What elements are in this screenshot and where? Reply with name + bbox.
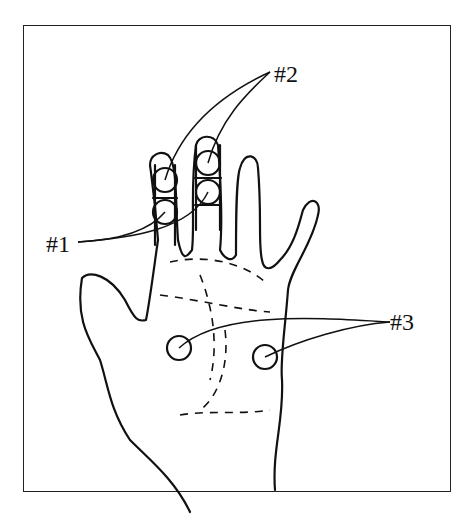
hand-outline [80, 137, 319, 512]
hand-drawing [0, 0, 468, 517]
label-point-2: #2 [274, 62, 298, 86]
label-point-3: #3 [390, 310, 414, 334]
label-point-1: #1 [46, 232, 70, 256]
